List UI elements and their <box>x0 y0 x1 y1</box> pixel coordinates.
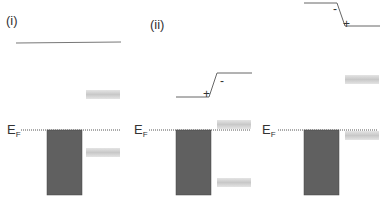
panel-ii <box>149 73 252 195</box>
molecular-level-band <box>86 90 120 99</box>
molecular-level-band <box>345 131 379 140</box>
charge-minus-ii: - <box>220 75 224 87</box>
vacuum-level-step-up <box>176 73 252 97</box>
panel-i <box>16 42 121 195</box>
metal-block <box>176 130 211 195</box>
panel-iii <box>278 3 380 195</box>
molecular-level-band <box>217 120 251 129</box>
molecular-level-band <box>86 148 120 157</box>
molecular-level-band <box>217 178 251 187</box>
metal-block <box>304 130 339 195</box>
vacuum-level-line <box>16 42 121 43</box>
charge-plus-ii: + <box>203 88 210 100</box>
molecular-level-band <box>345 75 379 84</box>
energy-diagram <box>0 0 387 203</box>
vacuum-level-step-down <box>304 3 380 26</box>
metal-block <box>47 130 82 195</box>
charge-plus-iii: + <box>343 18 350 30</box>
charge-minus-iii: - <box>333 3 337 15</box>
